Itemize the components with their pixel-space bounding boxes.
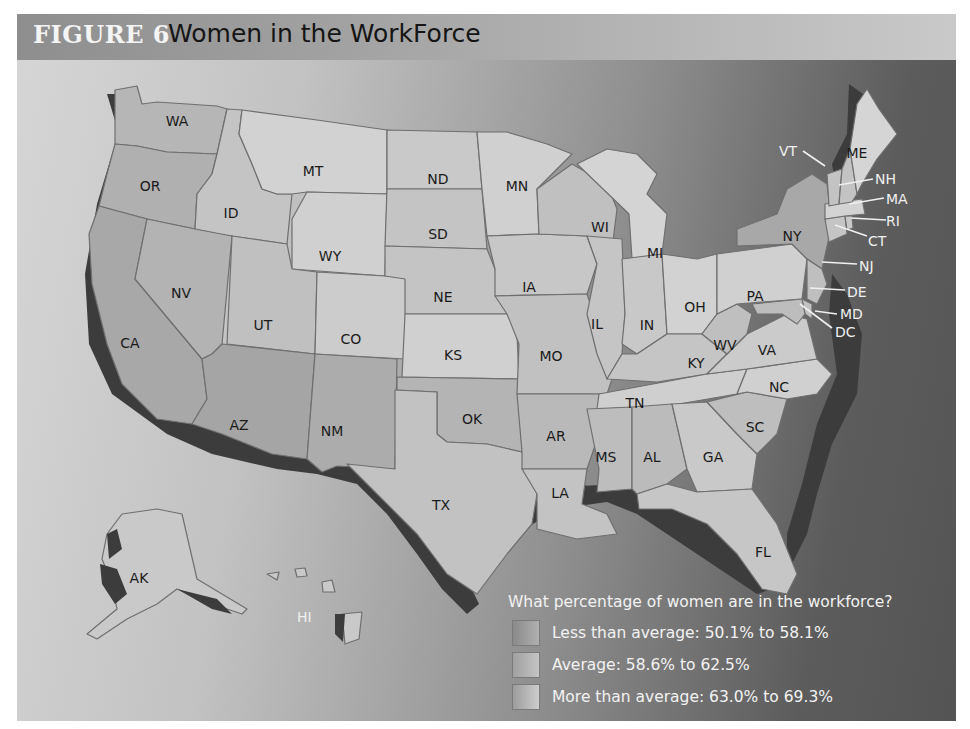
label-in: IN bbox=[640, 317, 655, 333]
label-hi: HI bbox=[297, 609, 312, 625]
legend-label-more: More than average: 63.0% to 69.3% bbox=[552, 688, 833, 706]
label-ia: IA bbox=[522, 279, 536, 295]
label-ms: MS bbox=[596, 449, 617, 465]
legend-label-less: Less than average: 50.1% to 58.1% bbox=[552, 624, 829, 642]
label-ks: KS bbox=[444, 347, 462, 363]
state-ct bbox=[825, 216, 847, 242]
states bbox=[89, 86, 407, 472]
legend-swatch-more bbox=[512, 684, 540, 710]
label-la: LA bbox=[551, 485, 569, 501]
label-or: OR bbox=[140, 178, 161, 194]
label-ri: RI bbox=[886, 213, 900, 229]
label-wi: WI bbox=[591, 219, 609, 235]
figure-number: FIGURE 6 bbox=[33, 20, 170, 49]
state-ia bbox=[487, 234, 597, 296]
label-nd: ND bbox=[427, 171, 448, 187]
label-az: AZ bbox=[229, 417, 248, 433]
label-wy: WY bbox=[319, 248, 342, 264]
figure-header: FIGURE 6 Women in the WorkForce bbox=[17, 14, 956, 60]
label-ar: AR bbox=[546, 428, 566, 444]
label-nh: NH bbox=[875, 171, 896, 187]
label-wv: WV bbox=[713, 337, 737, 353]
label-ga: GA bbox=[703, 449, 724, 465]
label-tn: TN bbox=[624, 395, 644, 411]
legend-question: What percentage of women are in the work… bbox=[508, 593, 948, 611]
label-ca: CA bbox=[120, 335, 140, 351]
states-noncontiguous bbox=[87, 509, 362, 644]
label-va: VA bbox=[758, 342, 777, 358]
map-figure: WA OR CA ID NV MT WY UT CO AZ NM ND SD N… bbox=[17, 14, 956, 721]
label-mo: MO bbox=[539, 348, 562, 364]
label-pa: PA bbox=[746, 288, 764, 304]
label-co: CO bbox=[341, 331, 362, 347]
label-ky: KY bbox=[687, 355, 705, 371]
label-me: ME bbox=[847, 145, 868, 161]
state-nj bbox=[807, 259, 827, 304]
label-sd: SD bbox=[428, 226, 448, 242]
label-il: IL bbox=[591, 316, 603, 332]
label-oh: OH bbox=[684, 299, 706, 315]
label-mi: MI bbox=[647, 245, 663, 261]
figure-title: Women in the WorkForce bbox=[168, 19, 481, 48]
label-ne: NE bbox=[433, 289, 452, 305]
legend-label-average: Average: 58.6% to 62.5% bbox=[552, 656, 750, 674]
label-ny: NY bbox=[782, 228, 801, 244]
label-mt: MT bbox=[303, 163, 324, 179]
legend-swatch-average bbox=[512, 652, 540, 678]
label-id: ID bbox=[224, 205, 239, 221]
legend-item-average: Average: 58.6% to 62.5% bbox=[512, 649, 948, 681]
label-nm: NM bbox=[321, 423, 344, 439]
label-tx: TX bbox=[431, 497, 451, 513]
label-ma: MA bbox=[886, 191, 908, 207]
label-dc: DC bbox=[835, 324, 856, 340]
label-nv: NV bbox=[171, 285, 191, 301]
label-vt: VT bbox=[779, 143, 798, 159]
hawaii-shadow bbox=[335, 614, 345, 642]
label-sc: SC bbox=[746, 419, 765, 435]
label-ok: OK bbox=[462, 411, 483, 427]
label-nc: NC bbox=[769, 379, 789, 395]
label-wa: WA bbox=[166, 113, 189, 129]
legend: What percentage of women are in the work… bbox=[508, 593, 948, 713]
label-al: AL bbox=[643, 449, 661, 465]
label-mn: MN bbox=[506, 178, 529, 194]
state-nm bbox=[307, 354, 397, 472]
label-ct: CT bbox=[868, 233, 887, 249]
legend-swatch-less bbox=[512, 620, 540, 646]
state-oh bbox=[662, 254, 717, 334]
label-ak: AK bbox=[130, 570, 150, 586]
label-ut: UT bbox=[254, 317, 273, 333]
legend-item-more: More than average: 63.0% to 69.3% bbox=[512, 681, 948, 713]
legend-item-less: Less than average: 50.1% to 58.1% bbox=[512, 617, 948, 649]
state-hi bbox=[267, 568, 362, 644]
label-de: DE bbox=[847, 284, 867, 300]
label-fl: FL bbox=[755, 544, 771, 560]
label-nj: NJ bbox=[859, 258, 874, 274]
label-md: MD bbox=[840, 306, 863, 322]
state-mt bbox=[239, 110, 387, 194]
